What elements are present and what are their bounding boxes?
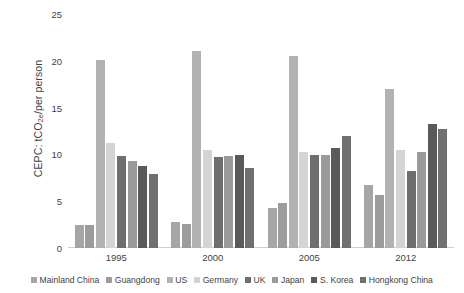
bar-2012-s-korea[interactable]: [428, 124, 437, 248]
bar-1995-us[interactable]: [96, 60, 105, 248]
bar-group-2005: 2005: [261, 14, 358, 248]
legend-label-japan: Japan: [281, 275, 304, 285]
bar-2000-japan[interactable]: [224, 156, 233, 248]
legend-label-uk: UK: [254, 275, 266, 285]
bar-groups: 1995200020052012: [68, 14, 454, 248]
legend-item-s-korea[interactable]: S. Korea: [311, 275, 353, 285]
legend-swatch-icon-germany: [194, 277, 200, 283]
bar-2000-us[interactable]: [192, 51, 201, 248]
bar-1995-uk[interactable]: [117, 156, 126, 248]
bar-2012-uk[interactable]: [407, 171, 416, 248]
legend-label-germany: Germany: [203, 275, 238, 285]
legend-label-us: US: [175, 275, 187, 285]
legend-swatch-icon-japan: [272, 277, 278, 283]
bar-2005-s-korea[interactable]: [331, 148, 340, 248]
y-axis-tick-25: 25: [51, 9, 62, 20]
bar-1995-mainland-china[interactable]: [75, 225, 84, 248]
bar-1995-s-korea[interactable]: [138, 166, 147, 248]
bar-1995-guangdong[interactable]: [85, 225, 94, 248]
bar-2012-japan[interactable]: [417, 152, 426, 248]
y-axis-title-prefix: CEPC: tCO: [32, 123, 44, 178]
legend-swatch-icon-uk: [245, 277, 251, 283]
bar-group-2012: 2012: [358, 14, 455, 248]
y-axis-tick-20: 20: [51, 55, 62, 66]
bar-2000-hongkong-china[interactable]: [245, 168, 254, 248]
y-axis-tick-0: 0: [57, 243, 62, 254]
bar-2005-germany[interactable]: [299, 152, 308, 248]
legend-label-hongkong-china: Hongkong China: [369, 275, 433, 285]
bar-2012-us[interactable]: [385, 89, 394, 248]
legend-label-s-korea: S. Korea: [320, 275, 353, 285]
legend-swatch-icon-guangdong: [106, 277, 112, 283]
bar-2005-japan[interactable]: [321, 155, 330, 248]
plot-area: 0510152025 1995200020052012: [68, 14, 454, 248]
legend-swatch-icon-hongkong-china: [360, 277, 366, 283]
legend-label-mainland-china: Mainland China: [40, 275, 100, 285]
x-axis-label-1995: 1995: [68, 252, 165, 263]
x-axis-label-2000: 2000: [165, 252, 262, 263]
bar-2000-mainland-china[interactable]: [171, 222, 180, 248]
bar-2005-mainland-china[interactable]: [268, 208, 277, 248]
y-axis-tick-10: 10: [51, 149, 62, 160]
bar-2000-uk[interactable]: [214, 157, 223, 248]
bar-2012-germany[interactable]: [396, 150, 405, 248]
legend-swatch-icon-mainland-china: [31, 277, 37, 283]
y-axis-title-suffix: /per person: [32, 60, 44, 114]
bar-group-2000: 2000: [165, 14, 262, 248]
bar-1995-germany[interactable]: [106, 143, 115, 248]
bar-2000-s-korea[interactable]: [235, 155, 244, 248]
bar-2012-hongkong-china[interactable]: [438, 129, 447, 248]
legend-item-guangdong[interactable]: Guangdong: [106, 275, 159, 285]
bar-2000-germany[interactable]: [203, 150, 212, 248]
bar-1995-hongkong-china[interactable]: [149, 174, 158, 248]
bar-1995-japan[interactable]: [128, 161, 137, 248]
legend-item-uk[interactable]: UK: [245, 275, 265, 285]
legend-swatch-icon-us: [167, 277, 173, 283]
chart-legend: Mainland ChinaGuangdongUSGermanyUKJapanS…: [0, 275, 464, 285]
bar-2005-hongkong-china[interactable]: [342, 136, 351, 248]
bar-group-1995: 1995: [68, 14, 165, 248]
bar-2005-uk[interactable]: [310, 155, 319, 248]
y-axis-title-subscript: 2e: [36, 114, 45, 123]
legend-item-hongkong-china[interactable]: Hongkong China: [360, 275, 433, 285]
bar-2012-mainland-china[interactable]: [364, 185, 373, 248]
legend-item-mainland-china[interactable]: Mainland China: [31, 275, 99, 285]
y-axis-tick-15: 15: [51, 102, 62, 113]
legend-item-germany[interactable]: Germany: [194, 275, 238, 285]
legend-swatch-icon-s-korea: [311, 277, 317, 283]
legend-item-japan[interactable]: Japan: [272, 275, 304, 285]
bar-chart: CEPC: tCO2e/per person 0510152025 199520…: [0, 0, 464, 293]
legend-item-us[interactable]: US: [167, 275, 187, 285]
y-axis-tick-5: 5: [57, 196, 62, 207]
bar-2005-us[interactable]: [289, 56, 298, 248]
bar-2005-guangdong[interactable]: [278, 203, 287, 248]
bar-2012-guangdong[interactable]: [375, 195, 384, 248]
legend-label-guangdong: Guangdong: [115, 275, 160, 285]
bar-2000-guangdong[interactable]: [182, 224, 191, 248]
y-axis-title: CEPC: tCO2e/per person: [32, 19, 45, 219]
x-axis-label-2012: 2012: [358, 252, 455, 263]
x-axis-label-2005: 2005: [261, 252, 358, 263]
